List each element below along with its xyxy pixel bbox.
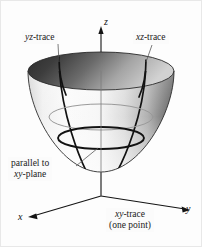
axis-x-line	[33, 196, 101, 216]
label-parallel-line2: xy-plane	[11, 169, 49, 180]
paraboloid-figure: yz-trace xz-trace parallel to xy-plane x…	[0, 0, 202, 247]
axis-x-label: x	[18, 211, 22, 222]
label-xy-trace: xy-trace (one point)	[106, 208, 154, 232]
label-yz-trace-italic: yz	[25, 32, 33, 42]
label-xy-trace-line1: xy-trace	[109, 209, 151, 220]
label-xz-trace-italic: xz	[136, 32, 144, 42]
axis-x-arrowhead	[28, 213, 38, 219]
label-parallel-suffix: -plane	[22, 169, 46, 179]
label-yz-trace: yz-trace	[22, 31, 58, 44]
label-xy-trace-suffix: -trace	[123, 209, 145, 219]
label-xy-trace-line2: (one point)	[109, 220, 151, 231]
label-xz-trace: xz-trace	[133, 31, 169, 44]
label-parallel-line1: parallel to	[11, 158, 49, 169]
axis-z-label: z	[104, 16, 108, 27]
axis-y-label: y	[186, 203, 190, 214]
label-xz-trace-suffix: -trace	[144, 32, 166, 42]
axis-z-arrowhead	[98, 26, 103, 34]
label-parallel-to-xy-plane: parallel to xy-plane	[8, 157, 52, 181]
label-yz-trace-suffix: -trace	[33, 32, 55, 42]
